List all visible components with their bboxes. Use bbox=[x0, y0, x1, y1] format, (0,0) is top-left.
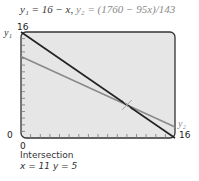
intersection-result: x = 11 y = 5 bbox=[20, 161, 77, 171]
intersection-title: Intersection bbox=[20, 150, 74, 160]
